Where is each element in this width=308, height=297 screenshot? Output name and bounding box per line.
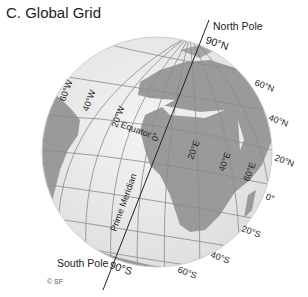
south-pole-label: South Pole <box>57 257 109 269</box>
latitude-label: 40°N <box>267 112 289 128</box>
latitude-label: 20°N <box>273 152 295 168</box>
latitude-label: 60°N <box>253 77 275 93</box>
copyright: © SF <box>47 278 63 285</box>
latitude-label: 0° <box>264 191 276 203</box>
latitude-label: 60°S <box>176 264 198 280</box>
latitude-label: 20°S <box>240 223 262 239</box>
globe: North Pole 90°N South Pole 90°S Equator … <box>0 0 308 297</box>
latitude-label: 40°S <box>209 249 231 265</box>
north-pole-label: North Pole <box>213 20 263 32</box>
